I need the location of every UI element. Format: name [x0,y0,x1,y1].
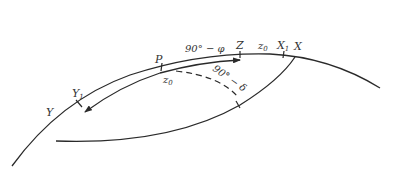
label-y1: Y1 [72,87,84,101]
label-x: X [293,40,303,53]
great-circle-arc [12,54,380,166]
label-codeclination: 90° − δ [211,63,249,94]
label-x1: X1 [276,39,289,53]
label-colatitude: 90° − φ [185,43,224,54]
tick-x1 [283,51,284,58]
label-z0-top: z0 [257,40,268,53]
label-y: Y [46,106,55,119]
label-z: Z [235,39,244,52]
spherical-triangle-diagram: P Z X1 X Y1 Y 90° − φ z0 z0 90° − δ [0,0,398,191]
arc-p-to-y1-arrow [85,73,160,112]
label-z0-bottom: z0 [162,74,173,87]
label-p: P [154,53,163,66]
